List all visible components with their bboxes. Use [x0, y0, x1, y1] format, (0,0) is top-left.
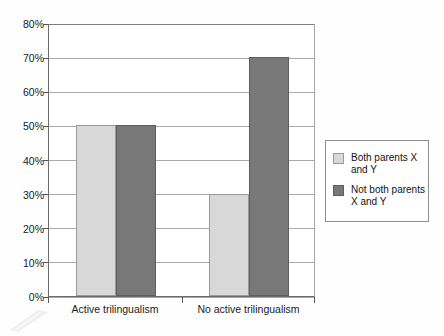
y-tick-label-80%: 80%: [4, 19, 44, 29]
y-tick-label-40%: 40%: [4, 156, 44, 166]
legend-item-0[interactable]: Both parents X and Y: [333, 152, 425, 175]
y-tick-label-0%: 0%: [4, 292, 44, 302]
y-tick-label-10%: 10%: [4, 258, 44, 268]
y-tick-label-70%: 70%: [4, 53, 44, 63]
legend-swatch-dark-icon: [333, 185, 344, 196]
gridline-80%: [49, 24, 314, 25]
legend-swatch-light-icon: [333, 153, 344, 164]
bar-0-0: [76, 125, 116, 296]
bar-chart-figure: 0%10%20%30%40%50%60%70%80% Active trilin…: [0, 0, 444, 336]
x-axis-label-1: No active trilingualism: [182, 303, 315, 316]
legend-item-1[interactable]: Not both parents X and Y: [333, 184, 425, 207]
y-tick-label-30%: 30%: [4, 190, 44, 200]
y-tick-label-50%: 50%: [4, 121, 44, 131]
x-axis-label-0: Active trilingualism: [48, 303, 182, 316]
legend: Both parents X and Y Not both parents X …: [325, 140, 429, 222]
legend-label-1: Not both parents X and Y: [351, 184, 425, 207]
y-tick-label-20%: 20%: [4, 224, 44, 234]
plot-area: [48, 24, 315, 297]
y-tick-label-60%: 60%: [4, 87, 44, 97]
bar-1-0: [209, 194, 249, 296]
bar-0-1: [116, 125, 156, 296]
legend-label-0: Both parents X and Y: [351, 152, 425, 175]
bar-1-1: [249, 57, 289, 296]
y-axis: 0%10%20%30%40%50%60%70%80%: [0, 24, 44, 297]
